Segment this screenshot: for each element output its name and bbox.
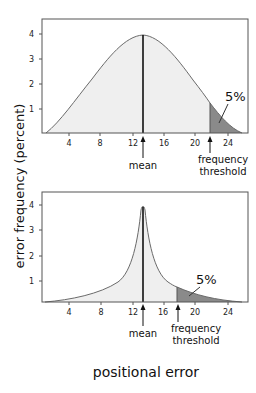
x-tick-label: 16	[158, 308, 168, 317]
mean-label: mean	[129, 328, 157, 339]
panel-peaked: 1 2 3 4 4 8 12 16 20 24 mean frequency	[29, 192, 248, 346]
tail-area	[177, 287, 242, 302]
threshold-label: frequency	[171, 323, 221, 334]
panel-normal: 1 2 3 4 4 8 12 16 20 24 mean frequency	[29, 19, 248, 177]
threshold-arrow-icon	[176, 304, 181, 322]
x-tick-label: 8	[98, 308, 103, 317]
area-fill	[46, 35, 210, 133]
threshold-label: frequency	[198, 154, 248, 165]
y-tick-label: 4	[29, 201, 34, 210]
x-tick-label: 24	[223, 308, 233, 317]
tail-percent-label: 5%	[225, 89, 246, 104]
y-tick-label: 2	[29, 80, 34, 89]
mean-arrow-icon	[141, 304, 146, 326]
y-axis-label: error frequency (percent)	[12, 104, 27, 269]
figure: 1 2 3 4 4 8 12 16 20 24 mean frequency	[0, 0, 256, 393]
x-tick-label: 12	[128, 139, 138, 148]
x-tick-label: 4	[66, 139, 71, 148]
mean-label: mean	[129, 160, 157, 171]
area-fill	[45, 206, 177, 302]
tail-percent-label: 5%	[196, 272, 217, 287]
y-tick-label: 2	[29, 252, 34, 261]
x-tick-label: 20	[190, 308, 200, 317]
threshold-arrow-icon	[208, 136, 213, 153]
y-tick-label: 4	[29, 30, 34, 39]
x-tick-label: 24	[223, 139, 233, 148]
y-tick-label: 3	[29, 55, 34, 64]
x-tick-label: 20	[190, 139, 200, 148]
y-tick-label: 3	[29, 226, 34, 235]
mean-arrow-icon	[141, 136, 146, 158]
x-tick-label: 4	[66, 308, 71, 317]
threshold-label: threshold	[172, 335, 219, 346]
x-tick-label: 12	[128, 308, 138, 317]
x-tick-label: 16	[159, 139, 169, 148]
y-tick-label: 1	[29, 277, 34, 286]
x-axis-label: positional error	[93, 364, 200, 380]
y-tick-label: 1	[29, 105, 34, 114]
x-tick-label: 8	[97, 139, 102, 148]
threshold-label: threshold	[199, 166, 246, 177]
